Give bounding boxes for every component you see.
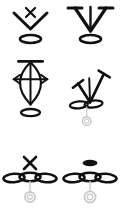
ghost-ring [82, 117, 91, 126]
filled-ellipse-dot [83, 160, 98, 166]
hollow-ellipse [80, 35, 101, 43]
ghost-ring [25, 192, 35, 202]
center-vertical-stem [89, 78, 90, 102]
hollow-ellipse [20, 35, 41, 43]
x-cross-mark [26, 8, 35, 17]
symbol-filled-dot-over-triple-ring [60, 146, 121, 214]
tilted-serif-capped-vee [73, 71, 110, 103]
symbol-lens-with-arrow-crossbars-over-ring [0, 55, 61, 127]
ghost-ring [84, 191, 95, 202]
x-cross-mark [24, 157, 36, 169]
hollow-ellipse [21, 109, 40, 116]
downward-chevron [14, 13, 47, 29]
symbol-sheet [0, 0, 121, 214]
symbol-tilted-serif-vee-over-double-ring [60, 62, 121, 134]
symbol-cross-over-triple-ring [0, 146, 61, 214]
